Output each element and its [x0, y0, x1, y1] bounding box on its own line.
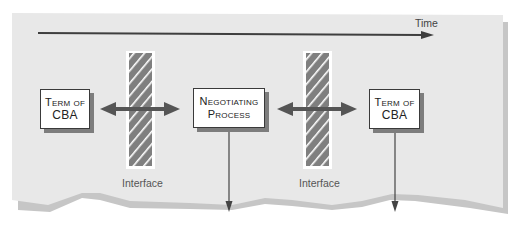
negotiating-process-box: Negotiating Process	[193, 88, 265, 128]
box-line-2: Process	[208, 108, 251, 121]
term-of-cba-box-1: Term of CBA	[40, 89, 90, 129]
interface-label-1: Interface	[122, 177, 163, 189]
box-line-2: CBA	[382, 109, 407, 122]
term-of-cba-box-2: Term of CBA	[369, 89, 420, 129]
box-line-2: CBA	[52, 109, 77, 122]
interface-label-2: Interface	[299, 177, 340, 189]
timeline-label: Time	[415, 17, 438, 29]
box-line-1: Negotiating	[200, 95, 259, 108]
down-arrow-2-head	[392, 201, 399, 212]
